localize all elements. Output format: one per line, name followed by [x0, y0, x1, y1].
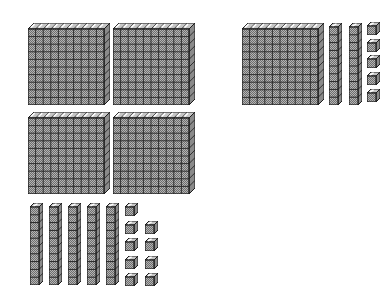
cube-front-face [367, 43, 376, 52]
one-cube-block [367, 22, 380, 35]
one-cube-block [367, 39, 380, 52]
base-ten-blocks-figure [0, 0, 391, 293]
cube-front-face [367, 26, 376, 35]
one-cube-block [367, 72, 380, 85]
ten-rod-block [349, 23, 362, 105]
hundred-flat-block [242, 23, 324, 105]
cube-front-face [367, 93, 376, 102]
cube-front-face [367, 59, 376, 68]
block-group-right [0, 0, 391, 293]
cube-front-face [367, 76, 376, 85]
ten-rod-block [329, 23, 342, 105]
one-cube-block [367, 89, 380, 102]
one-cube-block [367, 55, 380, 68]
